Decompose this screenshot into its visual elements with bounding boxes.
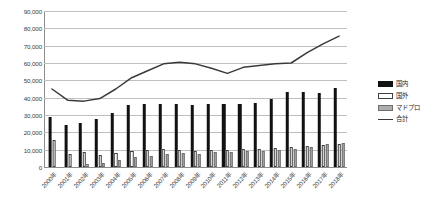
legend-label: 国外 bbox=[396, 93, 408, 99]
x-tick-label: 2000年 bbox=[39, 170, 58, 190]
x-tick-label: 2001年 bbox=[55, 170, 74, 190]
x-tick-label: 2012年 bbox=[230, 170, 249, 190]
legend-item[interactable]: 国外 bbox=[378, 93, 420, 99]
x-tick-label: 2015年 bbox=[278, 170, 297, 190]
x-axis-tick-labels: 2000年2001年2002年2003年2004年2005年2006年2007年… bbox=[44, 168, 347, 214]
total-line-series bbox=[44, 11, 347, 167]
x-tick-label: 2010年 bbox=[199, 170, 218, 190]
plot-area bbox=[44, 11, 347, 167]
x-tick-label: 2005年 bbox=[119, 170, 138, 190]
x-tick-label: 2009年 bbox=[183, 170, 202, 190]
legend-item[interactable]: 合計 bbox=[378, 116, 420, 122]
legend-key-swatch bbox=[378, 119, 393, 120]
y-tick-label: 70,000 bbox=[2, 42, 42, 49]
x-tick-label: 2014年 bbox=[262, 170, 281, 190]
y-tick-label: 20,000 bbox=[2, 129, 42, 136]
y-tick-label: 30,000 bbox=[2, 112, 42, 119]
legend-key-swatch bbox=[378, 93, 393, 99]
y-tick-label: 50,000 bbox=[2, 77, 42, 84]
legend-key-swatch bbox=[378, 105, 393, 111]
legend-item[interactable]: マドプロ bbox=[378, 105, 420, 111]
legend-key-swatch bbox=[378, 81, 393, 87]
legend-label: マドプロ bbox=[396, 105, 420, 111]
y-tick-label: 60,000 bbox=[2, 60, 42, 67]
x-tick-label: 2002年 bbox=[71, 170, 90, 190]
y-tick-label: 90,000 bbox=[2, 8, 42, 15]
y-tick-label: 40,000 bbox=[2, 94, 42, 101]
x-tick-label: 2016年 bbox=[294, 170, 313, 190]
x-tick-label: 2018年 bbox=[326, 170, 345, 190]
legend-item[interactable]: 国内 bbox=[378, 81, 420, 87]
legend-label: 合計 bbox=[396, 116, 408, 122]
x-tick-label: 2007年 bbox=[151, 170, 170, 190]
y-axis-tick-labels: 90,00080,00070,00060,00050,00040,00030,0… bbox=[0, 0, 42, 214]
x-tick-label: 2006年 bbox=[135, 170, 154, 190]
x-tick-label: 2011年 bbox=[215, 170, 234, 190]
chart-legend: 国内国外マドプロ合計 bbox=[378, 81, 420, 123]
x-tick-label: 2017年 bbox=[310, 170, 329, 190]
x-tick-label: 2003年 bbox=[87, 170, 106, 190]
x-tick-label: 2013年 bbox=[246, 170, 265, 190]
x-tick-label: 2004年 bbox=[103, 170, 122, 190]
y-tick-label: 80,000 bbox=[2, 25, 42, 32]
legend-label: 国内 bbox=[396, 81, 408, 87]
x-tick-label: 2008年 bbox=[167, 170, 186, 190]
y-tick-label: 10,000 bbox=[2, 146, 42, 153]
chart-container: 90,00080,00070,00060,00050,00040,00030,0… bbox=[0, 0, 444, 214]
y-tick-label: 0 bbox=[2, 164, 42, 171]
